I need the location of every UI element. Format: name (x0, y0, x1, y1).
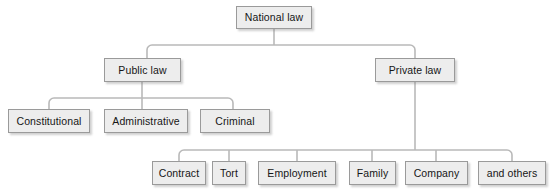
node-label: Criminal (213, 116, 256, 127)
node-label: Contract (157, 168, 201, 179)
node-constitutional[interactable]: Constitutional (8, 109, 90, 133)
node-administrative[interactable]: Administrative (104, 109, 188, 133)
node-label: Tort (218, 168, 240, 179)
node-employment[interactable]: Employment (258, 161, 336, 185)
node-private-law[interactable]: Private law (375, 58, 455, 82)
node-contract[interactable]: Contract (152, 161, 206, 185)
node-family[interactable]: Family (349, 161, 396, 185)
node-label: and others (485, 168, 540, 179)
node-and-others[interactable]: and others (478, 161, 546, 185)
node-label: Constitutional (14, 116, 83, 127)
node-public-law[interactable]: Public law (104, 58, 181, 82)
node-criminal[interactable]: Criminal (200, 109, 270, 133)
node-company[interactable]: Company (405, 161, 468, 185)
node-label: Family (355, 168, 391, 179)
node-label: Administrative (110, 116, 181, 127)
node-label: Company (412, 168, 462, 179)
diagram-canvas: National law Public law Private law Cons… (0, 0, 550, 196)
node-national-law[interactable]: National law (236, 6, 312, 29)
node-label: National law (243, 12, 305, 23)
node-label: Employment (265, 168, 328, 179)
node-label: Public law (116, 65, 168, 76)
node-tort[interactable]: Tort (212, 161, 246, 185)
node-label: Private law (387, 65, 443, 76)
